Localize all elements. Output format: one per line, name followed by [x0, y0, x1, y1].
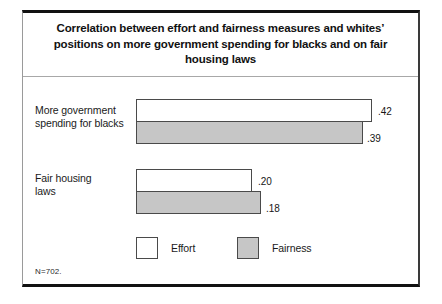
bar-fairness	[136, 121, 363, 144]
category-label-line: Fair housing	[35, 172, 139, 185]
category-label: Fair housing laws	[35, 172, 139, 199]
chart-footnote: N=702.	[35, 267, 62, 276]
chart-title-block: Correlation between effort and fairness …	[23, 13, 418, 77]
category-label-line: spending for blacks	[35, 117, 139, 130]
legend-swatch-fairness	[237, 237, 259, 259]
bar-value-label: .42	[378, 105, 392, 116]
bar-effort	[136, 169, 252, 192]
chart-figure: Correlation between effort and fairness …	[22, 10, 420, 287]
chart-title: Correlation between effort and fairness …	[23, 21, 418, 69]
bar-effort	[136, 99, 372, 122]
category-label: More government spending for blacks	[35, 104, 139, 131]
legend-swatch-effort	[136, 237, 158, 259]
bar-fairness	[136, 191, 261, 214]
bar-value-label: .18	[266, 202, 280, 213]
bar-value-label: .39	[367, 132, 381, 143]
legend-item-fairness: Fairness	[237, 237, 311, 259]
category-label-line: More government	[35, 104, 139, 117]
legend-label: Fairness	[272, 242, 311, 254]
chart-legend: Effort Fairness	[23, 237, 418, 267]
legend-item-effort: Effort	[136, 237, 195, 259]
legend-label: Effort	[171, 242, 195, 254]
category-label-line: laws	[35, 185, 139, 198]
plot-area: More government spending for blacks .42 …	[23, 77, 418, 283]
bar-value-label: .20	[258, 175, 272, 186]
